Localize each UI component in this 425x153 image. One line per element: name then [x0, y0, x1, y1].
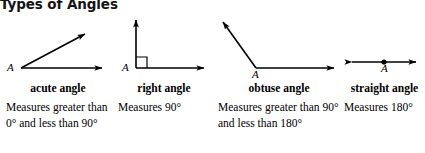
- angle-column-straight: A straight angle Measures 180°: [344, 12, 425, 153]
- straight-description: Measures 180°: [344, 100, 425, 116]
- angle-column-right: A right angle Measures 90°: [118, 12, 210, 153]
- obtuse-description: Measures greater than 90° and less than …: [218, 100, 340, 131]
- angle-column-acute: A acute angle Measures greater than 0° a…: [6, 12, 110, 153]
- straight-angle-diagram: A: [344, 12, 425, 78]
- acute-angle-diagram: A: [6, 12, 110, 78]
- acute-description: Measures greater than 0° and less than 9…: [6, 100, 110, 131]
- straight-vertex-label: A: [381, 63, 388, 74]
- right-angle-square-mark: [136, 57, 147, 68]
- right-description: Measures 90°: [118, 100, 210, 116]
- right-term-label: right angle: [118, 82, 210, 95]
- obtuse-term-label: obtuse angle: [218, 82, 340, 95]
- types-of-angles-figure: Types of Angles A acute angle M: [0, 0, 425, 153]
- straight-term-label: straight angle: [344, 82, 425, 95]
- obtuse-slanted-ray: [223, 22, 256, 68]
- acute-vertex-label: A: [7, 62, 14, 73]
- acute-slanted-ray: [21, 34, 85, 68]
- right-angle-diagram: A: [118, 12, 210, 78]
- angle-column-obtuse: A obtuse angle Measures greater than 90°…: [218, 12, 340, 153]
- acute-term-label: acute angle: [6, 82, 110, 95]
- obtuse-vertex-label: A: [252, 69, 259, 80]
- right-vertex-label: A: [122, 62, 129, 73]
- obtuse-angle-diagram: A: [218, 12, 340, 78]
